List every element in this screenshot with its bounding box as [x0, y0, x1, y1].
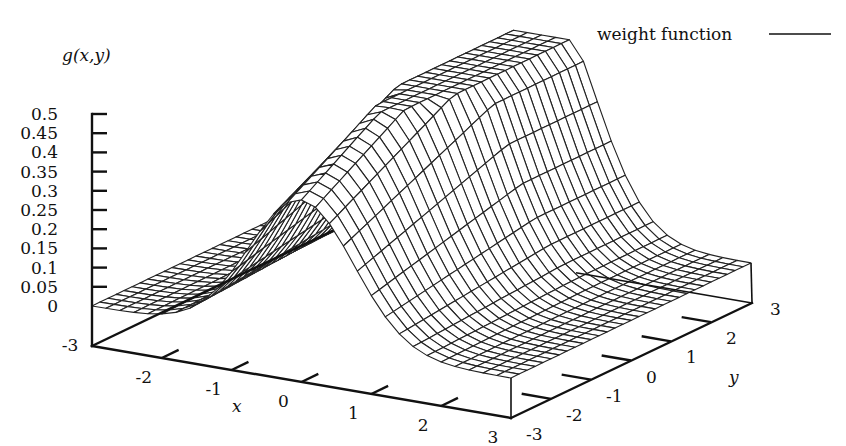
z-tick-label: 0.25 [20, 200, 58, 220]
y-tick-label: -1 [606, 386, 623, 406]
y-tick-label: -2 [566, 405, 583, 425]
y-tick-label: 1 [686, 347, 697, 367]
y-axis-label: y [728, 367, 739, 387]
z-tick-label: 0.35 [20, 162, 58, 182]
y-tick-label: 0 [646, 367, 657, 387]
x-axis-label: x [232, 396, 242, 416]
x-tick [232, 362, 249, 370]
z-tick-label: 0.45 [20, 123, 58, 143]
y-tick [642, 336, 671, 341]
y-tick-label: -3 [526, 424, 543, 444]
z-tick-label: 0.3 [31, 181, 58, 201]
x-tick-label: -2 [136, 367, 153, 387]
y-tick [562, 375, 591, 380]
surface-plot: 00.050.10.150.20.250.30.350.40.450.5-3-2… [0, 0, 846, 446]
z-tick-label: 0 [47, 296, 58, 316]
y-tick [682, 317, 711, 322]
x-tick-label: 1 [348, 403, 359, 423]
x-tick-label: -1 [205, 379, 222, 399]
x-tick-label: -3 [62, 335, 79, 355]
x-tick [371, 386, 388, 394]
x-tick-label: 0 [278, 391, 289, 411]
y-tick [602, 355, 631, 360]
z-tick-label: 0.15 [20, 238, 58, 258]
z-tick-label: 0.2 [31, 219, 58, 239]
box-right-vertical-edge [751, 263, 752, 303]
z-tick-label: 0.1 [31, 258, 58, 278]
x-tick [441, 398, 458, 406]
x-tick-label: 2 [418, 415, 429, 435]
x-tick-label: 3 [488, 427, 499, 446]
x-tick [302, 374, 319, 382]
z-tick-label: 0.5 [31, 104, 58, 124]
y-tick-label: 2 [726, 328, 737, 348]
surface-mesh [92, 30, 751, 378]
z-tick-label: 0.4 [31, 142, 58, 162]
x-tick [162, 350, 179, 358]
legend-label: weight function [597, 24, 732, 44]
legend: weight function [597, 24, 831, 44]
y-tick [522, 394, 551, 399]
z-tick-label: 0.05 [20, 277, 58, 297]
y-tick-label: 3 [770, 299, 781, 319]
z-axis-label: g(x,y) [62, 45, 111, 65]
